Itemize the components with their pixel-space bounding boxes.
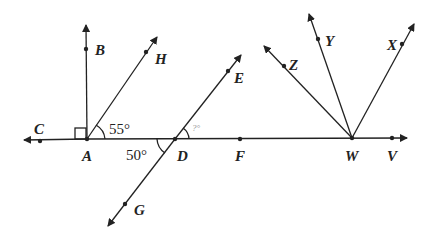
label-w: W (345, 148, 360, 164)
label-h: H (154, 51, 168, 67)
label-c: C (34, 121, 45, 137)
label-e: E (233, 70, 244, 86)
right-angle-mark (75, 128, 86, 139)
line-av (87, 138, 407, 139)
angle-label-edf: ?° (192, 123, 201, 133)
label-v: V (387, 148, 399, 164)
geometry-diagram: B H C A D E F G Z Y X W V 55° 50° ?° (0, 0, 431, 241)
angle-arc-50 (157, 139, 165, 153)
ray-wz (264, 46, 352, 138)
ray-ab (86, 25, 87, 139)
label-y: Y (325, 33, 336, 49)
angle-arc-edf (183, 128, 189, 139)
label-a: A (81, 148, 92, 164)
ray-de (175, 55, 241, 139)
angle-label-50: 50° (126, 147, 147, 163)
label-b: B (94, 42, 105, 58)
label-z: Z (288, 57, 298, 73)
angle-label-55: 55° (109, 121, 130, 137)
ray-wx (352, 24, 414, 138)
label-d: D (176, 148, 188, 164)
angle-arc-55 (96, 125, 105, 139)
label-f: F (234, 148, 245, 164)
label-x: X (386, 37, 398, 53)
label-g: G (134, 202, 145, 218)
